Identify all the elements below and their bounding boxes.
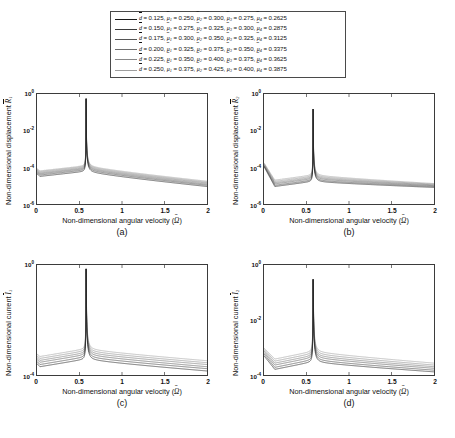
series-line [37, 269, 207, 365]
series-line [264, 109, 434, 184]
series-line [264, 279, 434, 368]
y-tick-label: 100 [14, 89, 34, 97]
x-tick-label: 0 [253, 207, 273, 214]
subplot-caption-c: (c) [36, 398, 208, 408]
legend-line-swatch [115, 49, 137, 50]
y-tick-label: 10-4 [241, 164, 261, 172]
series-line [264, 279, 434, 365]
plot-area-a [36, 93, 208, 205]
x-axis-label-d: Non-dimensional angular velocity (~Ω) [243, 387, 455, 396]
y-tick-label: 10-2 [241, 126, 261, 134]
series-line [264, 109, 434, 187]
y-axis-label-b: Non-dimensional displacement R2 [231, 97, 240, 205]
y-axis-label-c: Non-dimensional current I1 [4, 290, 13, 376]
series-line [37, 269, 207, 369]
series-line [37, 269, 207, 361]
series-line [264, 279, 434, 366]
x-tick-label: 2 [198, 378, 218, 385]
x-tick-label: 1 [339, 378, 359, 385]
legend-line-swatch [115, 59, 137, 60]
y-tick-label: 100 [241, 260, 261, 268]
x-tick-label: 0 [26, 207, 46, 214]
x-tick-label: 1 [112, 378, 132, 385]
curves-c [37, 265, 207, 375]
curves-a [37, 94, 207, 204]
y-tick-label: 100 [14, 260, 34, 268]
x-tick-label: 1 [339, 207, 359, 214]
x-tick-label: 0 [253, 378, 273, 385]
series-line [37, 269, 207, 363]
x-axis-label-b: Non-dimensional angular velocity (~Ω) [243, 216, 455, 225]
curves-d [264, 265, 434, 375]
series-line [264, 109, 434, 185]
y-tick-label: 10-2 [241, 316, 261, 324]
legend-line-swatch [115, 39, 137, 40]
series-line [264, 279, 434, 370]
series-line [264, 109, 434, 186]
y-tick-label: 10-2 [14, 126, 34, 134]
x-axis-label-a: Non-dimensional angular velocity (~Ω) [16, 216, 228, 225]
curves-b [264, 94, 434, 204]
plot-area-c [36, 264, 208, 376]
y-tick-label: 10-4 [14, 164, 34, 172]
x-tick-label: 2 [198, 207, 218, 214]
series-line [264, 279, 434, 363]
subplot-caption-b: (b) [263, 227, 435, 237]
x-tick-label: 1.5 [155, 378, 175, 385]
y-tick-label: 100 [241, 89, 261, 97]
x-tick-label: 0 [26, 378, 46, 385]
x-axis-label-c: Non-dimensional angular velocity (~Ω) [16, 387, 228, 396]
x-tick-label: 2 [425, 378, 445, 385]
series-line [264, 109, 434, 183]
x-tick-label: 1.5 [155, 207, 175, 214]
legend-line-swatch [115, 19, 137, 20]
legend-item: d=0.250, ~μ1=0.375, ~μ2=0.425, ~μ3=0.400… [114, 65, 342, 75]
plot-area-b [263, 93, 435, 205]
series-line [37, 99, 207, 182]
subplot-caption-d: (d) [263, 398, 435, 408]
legend-line-swatch [115, 70, 137, 71]
subplot-caption-a: (a) [36, 227, 208, 237]
x-tick-label: 1.5 [382, 207, 402, 214]
plot-area-d [263, 264, 435, 376]
series-line [264, 109, 434, 186]
x-tick-label: 0.5 [69, 378, 89, 385]
x-tick-label: 2 [425, 207, 445, 214]
legend: d=0.125, ~μ1=0.250, ~μ2=0.300, ~μ3=0.275… [110, 11, 346, 78]
x-tick-label: 0.5 [296, 207, 316, 214]
y-axis-label-a: Non-dimensional displacement R1 [4, 97, 13, 205]
y-axis-label-d: Non-dimensional current I2 [231, 290, 240, 376]
x-tick-label: 0.5 [296, 378, 316, 385]
x-tick-label: 1.5 [382, 378, 402, 385]
legend-line-swatch [115, 29, 137, 30]
x-tick-label: 0.5 [69, 207, 89, 214]
series-line [37, 269, 207, 371]
series-line [37, 99, 207, 183]
series-line [37, 99, 207, 181]
x-tick-label: 1 [112, 207, 132, 214]
legend-label: d=0.250, ~μ1=0.375, ~μ2=0.425, ~μ3=0.400… [139, 64, 287, 76]
series-line [37, 269, 207, 367]
